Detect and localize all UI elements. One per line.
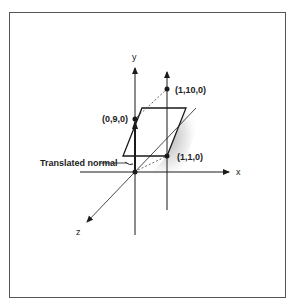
- x-axis-label: x: [236, 167, 241, 177]
- y-axis-label: y: [132, 52, 137, 62]
- callout-label: Translated normal: [40, 158, 118, 168]
- point-0-9-0: [133, 117, 138, 122]
- point-1-1-0: [165, 154, 170, 159]
- point-1-10-0: [165, 87, 170, 92]
- figure-frame: [10, 13, 286, 298]
- point-origin: [133, 170, 138, 175]
- point-label-0-9-0: (0,9,0): [102, 114, 128, 124]
- translated-normal-diagram: y x z Translated normal (0,9,0) (1,10,0)…: [0, 0, 292, 304]
- point-label-1-10-0: (1,10,0): [175, 85, 206, 95]
- point-label-1-1-0: (1,1,0): [177, 152, 203, 162]
- z-axis-label: z: [76, 227, 81, 237]
